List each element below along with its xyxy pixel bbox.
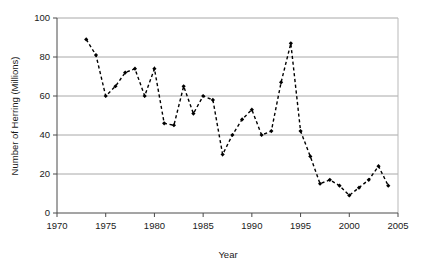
x-tick-label-1970: 1970	[46, 220, 67, 231]
y-tick-label-60: 60	[39, 90, 50, 101]
x-axis-title: Year	[218, 249, 237, 260]
x-tick-label-1995: 1995	[290, 220, 311, 231]
x-tick-label-1985: 1985	[193, 220, 214, 231]
y-tick-label-40: 40	[39, 129, 50, 140]
herring-line-chart: 020406080100 197019751980198519901995200…	[0, 0, 424, 267]
y-tick-label-0: 0	[45, 207, 50, 218]
x-tick-label-2000: 2000	[339, 220, 360, 231]
x-tick-label-1975: 1975	[95, 220, 116, 231]
chart-container: 020406080100 197019751980198519901995200…	[0, 0, 424, 267]
y-axis-title: Number of Herring (Millions)	[9, 57, 20, 176]
x-tick-label-2005: 2005	[387, 220, 408, 231]
x-tick-label-1990: 1990	[241, 220, 262, 231]
x-tick-label-1980: 1980	[144, 220, 165, 231]
y-tick-label-80: 80	[39, 51, 50, 62]
y-tick-label-100: 100	[34, 12, 50, 23]
y-tick-label-20: 20	[39, 168, 50, 179]
